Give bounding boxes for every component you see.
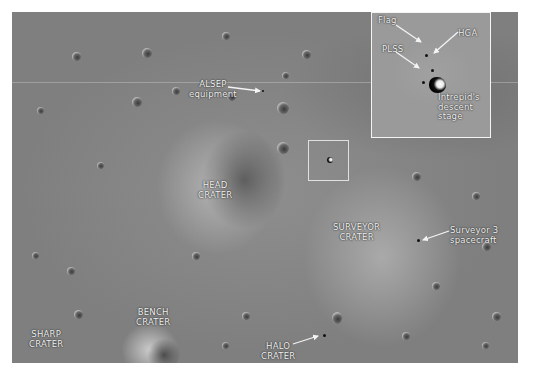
alsep-marker: [262, 90, 264, 92]
hga-label: HGA: [458, 29, 477, 39]
crater: [97, 162, 104, 169]
crater: [72, 52, 81, 61]
crater: [172, 87, 180, 95]
halo-crater-label: HALO CRATER: [261, 342, 295, 361]
descent-stage: [429, 77, 446, 93]
surveyor-crater-label: SURVEYOR CRATER: [333, 223, 380, 242]
crater: [472, 192, 480, 200]
crater: [482, 342, 489, 349]
crater: [492, 312, 501, 321]
crater: [222, 32, 230, 40]
crater: [74, 310, 83, 319]
crater: [282, 72, 289, 79]
crater: [67, 267, 75, 275]
crater: [332, 312, 342, 324]
alsep-label: ALSEP equipment: [189, 80, 237, 99]
plss-marker: [422, 81, 425, 84]
surveyor-3-spacecraft-marker: [417, 239, 420, 242]
crater: [132, 97, 142, 107]
crater: [37, 107, 44, 114]
crater: [412, 172, 421, 181]
surveyor-spacecraft-label: Surveyor 3 spacecraft: [450, 226, 498, 245]
hga-marker: [431, 69, 434, 72]
lunar-module-small: [327, 157, 333, 163]
descent-stage-label: Intrepid's descent stage: [438, 93, 490, 122]
sharp-crater-label: SHARP CRATER: [29, 330, 63, 349]
head-crater-label: HEAD CRATER: [198, 181, 232, 200]
flag-label: Flag: [378, 16, 397, 26]
crater: [402, 332, 410, 340]
bench-crater-label: BENCH CRATER: [136, 308, 170, 327]
crater: [222, 342, 229, 349]
crater: [277, 102, 289, 114]
crater: [242, 312, 250, 320]
crater: [192, 252, 200, 260]
plss-label: PLSS: [382, 45, 403, 55]
halo-crater-marker: [323, 334, 326, 337]
crater: [32, 252, 39, 259]
crater: [277, 142, 289, 154]
crater: [432, 282, 440, 290]
crater: [302, 50, 311, 59]
flag-marker: [425, 54, 428, 57]
landing-site-inset: Flag HGA PLSS Intrepid's descent stage: [371, 12, 491, 138]
crater: [142, 48, 152, 58]
